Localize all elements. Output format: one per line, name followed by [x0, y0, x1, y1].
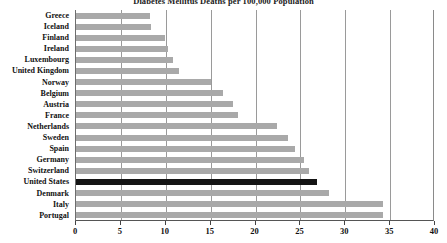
- tick-mark: [165, 221, 166, 225]
- bar: [76, 123, 277, 129]
- bar: [76, 212, 383, 218]
- y-axis-label: United Kingdom: [0, 65, 72, 76]
- bar: [76, 190, 329, 196]
- diabetes-deaths-bar-chart: Diabetes Mellitus Deaths per 100,000 Pop…: [0, 0, 447, 243]
- tick-mark: [344, 221, 345, 225]
- tick-mark: [389, 221, 390, 225]
- bar: [76, 90, 223, 96]
- y-axis-label: Switzerland: [0, 165, 72, 176]
- bar-row: [76, 165, 433, 176]
- bar: [76, 157, 304, 163]
- bar-row: [76, 88, 433, 99]
- tick-mark: [434, 221, 435, 225]
- bar-row: [76, 154, 433, 165]
- bar: [76, 68, 179, 74]
- bar-row: [76, 188, 433, 199]
- x-axis-tick-label: 0: [73, 226, 77, 236]
- bar-rows: [76, 10, 433, 220]
- y-axis-label: Norway: [0, 77, 72, 88]
- bar: [76, 35, 165, 41]
- y-axis-label: France: [0, 110, 72, 121]
- bar-row: [76, 43, 433, 54]
- tick-mark: [210, 221, 211, 225]
- x-axis-tick-label: 5: [118, 226, 122, 236]
- tick-mark: [75, 221, 76, 225]
- x-axis-tick-label: 35: [385, 226, 394, 236]
- x-axis-tick-label: 20: [250, 226, 259, 236]
- y-axis-label: Austria: [0, 99, 72, 110]
- x-axis-ticks: 0510152025303540: [75, 221, 434, 241]
- bar-row: [76, 132, 433, 143]
- bar: [76, 13, 150, 19]
- y-axis-label: Belgium: [0, 88, 72, 99]
- bar-row: [76, 32, 433, 43]
- y-axis-label: Italy: [0, 199, 72, 210]
- plot-area: [75, 10, 434, 221]
- bar: [76, 135, 288, 141]
- bar-row: [76, 110, 433, 121]
- bar: [76, 57, 173, 63]
- x-axis-tick-label: 10: [161, 226, 170, 236]
- bar-row: [76, 143, 433, 154]
- x-axis-tick-label: 40: [430, 226, 439, 236]
- tick-mark: [120, 221, 121, 225]
- bar-row: [76, 21, 433, 32]
- bar: [76, 179, 317, 185]
- bar: [76, 79, 211, 85]
- y-axis-label: Netherlands: [0, 121, 72, 132]
- x-axis-tick-label: 25: [295, 226, 304, 236]
- y-axis-label: Finland: [0, 32, 72, 43]
- bar-row: [76, 77, 433, 88]
- y-axis-label: Spain: [0, 143, 72, 154]
- chart-title: Diabetes Mellitus Deaths per 100,000 Pop…: [0, 0, 447, 6]
- y-axis-label: Iceland: [0, 21, 72, 32]
- y-axis-label: Ireland: [0, 43, 72, 54]
- bar-row: [76, 199, 433, 210]
- bar-row: [76, 99, 433, 110]
- bar-row: [76, 176, 433, 187]
- tick-mark: [255, 221, 256, 225]
- bar: [76, 201, 383, 207]
- y-axis-category-labels: GreeceIcelandFinlandIrelandLuxembourgUni…: [0, 10, 72, 221]
- bar-row: [76, 210, 433, 221]
- tick-mark: [299, 221, 300, 225]
- bar: [76, 46, 168, 52]
- x-axis-tick-label: 30: [340, 226, 349, 236]
- bar-row: [76, 65, 433, 76]
- bar: [76, 168, 309, 174]
- bar: [76, 101, 233, 107]
- y-axis-label: Germany: [0, 154, 72, 165]
- y-axis-label: Sweden: [0, 132, 72, 143]
- bar-row: [76, 121, 433, 132]
- bar-row: [76, 54, 433, 65]
- bar-row: [76, 10, 433, 21]
- y-axis-label: Greece: [0, 10, 72, 21]
- y-axis-label: Luxembourg: [0, 54, 72, 65]
- x-axis-tick-label: 15: [205, 226, 214, 236]
- bar: [76, 146, 295, 152]
- bar: [76, 112, 238, 118]
- y-axis-label: Denmark: [0, 188, 72, 199]
- y-axis-label: Portugal: [0, 210, 72, 221]
- y-axis-label: United States: [0, 176, 72, 187]
- bar: [76, 24, 151, 30]
